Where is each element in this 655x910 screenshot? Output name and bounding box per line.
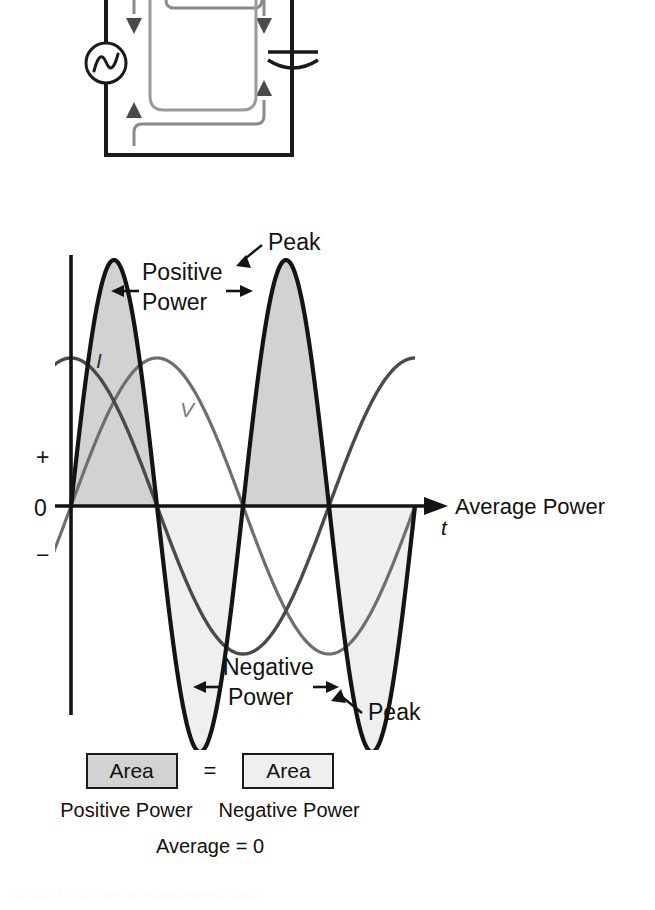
negative-power-label-line1: Negative — [223, 654, 314, 680]
legend-caption-positive-power: Positive Power — [60, 799, 192, 822]
axis-label-time: t — [441, 516, 448, 539]
positive-power-label-line2: Power — [142, 289, 208, 315]
peak-top-annotation: Peak — [236, 229, 321, 268]
legend-boxes-row: Area = Area — [0, 753, 420, 789]
legend-captions-row: Positive Power Negative Power — [0, 799, 420, 822]
equals-sign: = — [204, 758, 217, 784]
peak-top-label: Peak — [268, 229, 321, 255]
area-swatch-negative-power: Area — [242, 753, 334, 789]
capacitor-icon — [268, 0, 318, 155]
area-swatch-positive-power: Area — [86, 753, 178, 789]
axis-label-minus: − — [36, 542, 49, 568]
peak-bottom-label: Peak — [368, 699, 421, 725]
average-power-label: Average Power — [455, 494, 605, 519]
circuit-diagram-svg — [0, 0, 655, 175]
legend-average-row: Average = 0 — [0, 835, 420, 858]
current-curve-label: I — [96, 349, 102, 372]
axis-label-plus: + — [36, 444, 49, 470]
negative-power-label-line2: Power — [228, 684, 294, 710]
power-waveform-chart: + 0 − t Average Power I V Positive Power… — [0, 175, 655, 750]
circuit-diagram-panel — [0, 0, 655, 175]
area-equivalence-legend: Area = Area Positive Power Negative Powe… — [0, 745, 655, 875]
current-arrow-loop-inner — [126, 0, 272, 34]
ac-source-icon — [86, 43, 126, 83]
positive-power-label-line1: Positive — [142, 259, 223, 285]
voltage-curve-label: V — [180, 398, 196, 421]
figure-caption: FIGURE 15-10 Power in a capacitive AC ci… — [8, 888, 648, 902]
legend-average-equals-zero: Average = 0 — [156, 835, 264, 858]
power-waveform-chart-panel: + 0 − t Average Power I V Positive Power… — [0, 175, 655, 750]
axis-label-zero: 0 — [34, 495, 47, 521]
legend-caption-negative-power: Negative Power — [219, 799, 360, 822]
current-arrow-loop-outer — [126, 0, 272, 146]
